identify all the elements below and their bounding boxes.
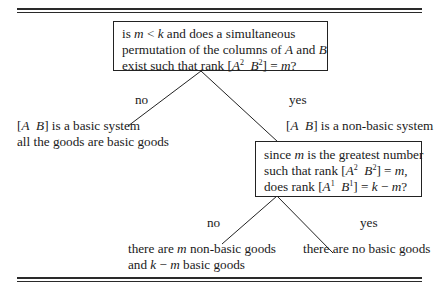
no-basic-goods-result: there are no basic goods bbox=[303, 241, 430, 257]
node2-question-box: since m is the greatest number such that… bbox=[255, 141, 422, 197]
non-basic-goods-result: there are m non-basic goods and k − m ba… bbox=[128, 241, 276, 273]
basic-system-line-2: all the goods are basic goods bbox=[17, 134, 169, 150]
node2-line-3: does rank [A1 B1] = k − m? bbox=[264, 179, 421, 195]
non-basic-goods-line-1: there are m non-basic goods bbox=[128, 241, 276, 257]
root-line-1: is m < k and does a simultaneous bbox=[122, 26, 327, 42]
non-basic-goods-line-2: and k − m basic goods bbox=[128, 257, 276, 273]
branch-no-2-label: no bbox=[207, 215, 220, 231]
basic-system-line-1: [A B] is a basic system bbox=[17, 118, 169, 134]
branch-yes-1-label: yes bbox=[289, 92, 307, 108]
node2-line-2: such that rank [A2 B2] = m, bbox=[264, 163, 421, 179]
bottom-rule bbox=[17, 277, 422, 282]
branch-yes-2-label: yes bbox=[360, 215, 378, 231]
edge-root-yes bbox=[201, 71, 278, 142]
root-line-3: exist such that rank [A2 B2] = m? bbox=[122, 58, 327, 74]
edge-node2-no bbox=[222, 196, 277, 244]
non-basic-system-result: [A B] is a non-basic system bbox=[286, 118, 433, 134]
non-basic-system-line: [A B] is a non-basic system bbox=[286, 118, 433, 134]
node2-line-1: since m is the greatest number bbox=[264, 147, 421, 163]
root-question-box: is m < k and does a simultaneous permuta… bbox=[113, 21, 328, 71]
root-line-2: permutation of the columns of A and B bbox=[122, 42, 327, 58]
basic-system-result: [A B] is a basic system all the goods ar… bbox=[17, 118, 169, 150]
branch-no-1-label: no bbox=[135, 92, 148, 108]
